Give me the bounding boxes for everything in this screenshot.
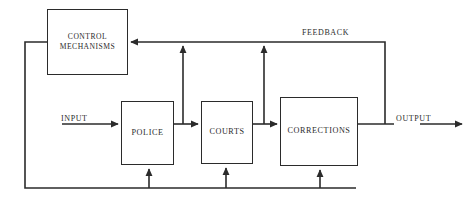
node-control-mechanisms-label: CONTROL MECHANISMS	[60, 32, 116, 51]
edge-label-output: OUTPUT	[396, 114, 431, 123]
node-corrections[interactable]: CORRECTIONS	[280, 97, 358, 166]
node-courts[interactable]: COURTS	[201, 101, 253, 164]
node-police[interactable]: POLICE	[121, 101, 174, 165]
edge-label-feedback: FEEDBACK	[302, 28, 349, 37]
edge-label-input: INPUT	[61, 114, 88, 123]
node-courts-label: COURTS	[209, 127, 244, 138]
node-corrections-label: CORRECTIONS	[288, 126, 351, 137]
node-control-mechanisms[interactable]: CONTROL MECHANISMS	[47, 9, 128, 75]
node-police-label: POLICE	[132, 128, 164, 139]
diagram-canvas: CONTROL MECHANISMS POLICE COURTS CORRECT…	[0, 0, 471, 201]
